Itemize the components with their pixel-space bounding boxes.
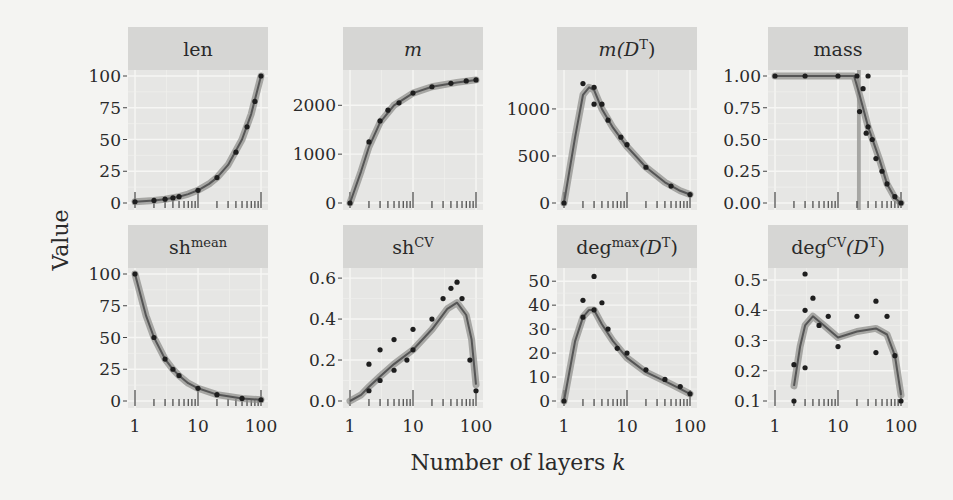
y-tick-label: 2000 — [293, 95, 336, 115]
data-point — [454, 280, 459, 285]
data-point — [791, 362, 796, 367]
data-point — [865, 73, 870, 78]
x-tick-label: 100 — [245, 416, 277, 436]
data-point — [591, 102, 596, 107]
data-point — [643, 165, 648, 170]
y-tick-label: 0.25 — [723, 161, 761, 181]
data-point — [162, 197, 167, 202]
x-axis-title: Number of layers k — [410, 450, 625, 475]
y-tick-label: 0.50 — [723, 130, 761, 150]
data-point — [448, 81, 453, 86]
y-tick-label: 0.2 — [734, 361, 761, 381]
y-tick-label: 0 — [539, 193, 550, 213]
y-tick-label: 100 — [89, 66, 121, 86]
y-tick-label: 75 — [99, 98, 121, 118]
data-point — [802, 271, 807, 276]
data-point — [865, 124, 870, 129]
x-tick-label: 1 — [770, 416, 781, 436]
data-point — [391, 368, 396, 373]
data-point — [347, 200, 352, 205]
data-point — [624, 142, 629, 147]
data-point — [252, 99, 257, 104]
data-point — [440, 296, 445, 301]
data-point — [643, 367, 648, 372]
data-point — [385, 108, 390, 113]
data-point — [151, 198, 156, 203]
data-point — [162, 356, 167, 361]
data-point — [195, 188, 200, 193]
data-point — [459, 296, 464, 301]
data-point — [873, 156, 878, 161]
data-point — [176, 373, 181, 378]
data-point — [687, 391, 692, 396]
data-point — [772, 73, 777, 78]
y-tick-label: 50 — [528, 271, 550, 291]
data-point — [898, 200, 903, 205]
data-point — [410, 347, 415, 352]
panel-title: m — [404, 38, 422, 60]
y-axis-title: Value — [48, 209, 73, 271]
y-tick-label: 0.2 — [309, 350, 336, 370]
data-point — [366, 388, 371, 393]
data-point — [873, 350, 878, 355]
data-point — [151, 335, 156, 340]
panel-title: len — [183, 38, 213, 60]
x-tick-label: 10 — [402, 416, 424, 436]
y-tick-label: 0 — [325, 193, 336, 213]
data-point — [580, 315, 585, 320]
data-point — [854, 314, 859, 319]
y-tick-label: 0 — [539, 391, 550, 411]
data-point — [473, 77, 478, 82]
data-point — [615, 346, 620, 351]
data-point — [879, 169, 884, 174]
data-point — [366, 362, 371, 367]
data-point — [624, 350, 629, 355]
data-point — [404, 357, 409, 362]
y-tick-label: 100 — [89, 264, 121, 284]
y-tick-label: 0.4 — [734, 300, 761, 320]
data-point — [377, 378, 382, 383]
data-point — [599, 102, 604, 107]
y-tick-label: 0.75 — [723, 98, 761, 118]
y-tick-label: 25 — [99, 359, 121, 379]
x-tick-label: 100 — [674, 416, 706, 436]
data-point — [802, 308, 807, 313]
panel-m_DT: m(DT)05001000 — [507, 27, 697, 213]
data-point — [580, 298, 585, 303]
panel-degCV_DT: degCV(DT)0.10.20.30.40.5110100 — [734, 225, 917, 436]
x-tick-label: 100 — [460, 416, 492, 436]
data-point — [892, 194, 897, 199]
data-point — [591, 307, 596, 312]
data-point — [870, 137, 875, 142]
y-tick-label: 0 — [110, 391, 121, 411]
y-tick-label: 0.1 — [734, 391, 761, 411]
y-tick-label: 50 — [99, 328, 121, 348]
data-point — [473, 388, 478, 393]
y-tick-label: 0 — [110, 193, 121, 213]
data-point — [561, 398, 566, 403]
data-point — [826, 314, 831, 319]
data-point — [366, 139, 371, 144]
x-tick-label: 1 — [559, 416, 570, 436]
x-tick-label: 100 — [885, 416, 917, 436]
data-point — [835, 344, 840, 349]
data-point — [884, 181, 889, 186]
data-point — [591, 85, 596, 90]
y-tick-label: 25 — [99, 161, 121, 181]
y-tick-label: 0.5 — [734, 270, 761, 290]
data-point — [860, 86, 865, 91]
x-tick-label: 10 — [827, 416, 849, 436]
y-tick-label: 500 — [518, 146, 550, 166]
y-tick-label: 10 — [528, 367, 550, 387]
y-tick-label: 40 — [528, 295, 550, 315]
panel-degmax_DT: degmax(DT)01020304050110100 — [528, 225, 706, 436]
panel-title: mass — [814, 38, 863, 60]
data-point — [678, 384, 683, 389]
data-point — [599, 300, 604, 305]
data-point — [214, 175, 219, 180]
data-point — [857, 109, 862, 114]
y-tick-label: 20 — [528, 343, 550, 363]
data-point — [464, 78, 469, 83]
data-point — [580, 81, 585, 86]
data-point — [791, 398, 796, 403]
